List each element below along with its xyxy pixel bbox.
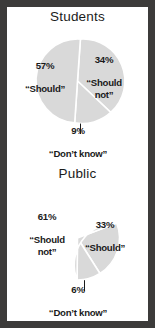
slice-name-should: “Should” xyxy=(85,242,125,253)
slice-value-dont-know: 6% xyxy=(71,284,84,295)
slice-value-should-not: 34% xyxy=(95,54,113,65)
pie-chart-students: Students 57% xyxy=(7,7,148,164)
figure-canvas: Students 57% xyxy=(7,7,148,321)
slice-name-dont-know: “Don’t know” xyxy=(49,307,107,318)
slice-name-should: “Should” xyxy=(25,83,65,94)
slice-value-should: 33% xyxy=(96,219,114,230)
figure-frame: Students 57% xyxy=(0,0,155,328)
pie-chart-public: Public 61% xyxy=(7,164,148,321)
slice-name-should-not: “Should not” xyxy=(86,77,122,99)
slice-label-should-not: 61% “Should not” xyxy=(16,200,78,257)
slice-label-should-not: 34% “Should not” xyxy=(77,43,131,100)
slice-value-should: 57% xyxy=(36,60,54,71)
slice-name-dont-know: “Don’t know” xyxy=(49,148,107,159)
slice-value-dont-know: 9% xyxy=(71,125,84,136)
slice-label-should: 33% “Should” xyxy=(77,208,133,254)
slice-label-dont-know: 9% “Don’t know” xyxy=(37,114,119,160)
chart-title-public: Public xyxy=(7,166,148,181)
chart-title-students: Students xyxy=(7,9,148,24)
slice-name-should-not: “Should not” xyxy=(29,234,65,256)
slice-label-should: 57% “Should” xyxy=(17,49,73,95)
slice-label-dont-know: 6% “Don’t know” xyxy=(35,273,121,319)
slice-value-should-not: 61% xyxy=(38,211,56,222)
